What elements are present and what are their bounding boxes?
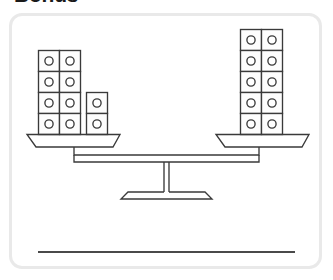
page-title: Bonus [14,0,78,6]
problem-card [9,13,322,269]
